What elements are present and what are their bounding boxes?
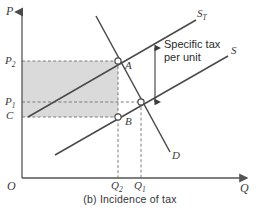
price-label-p2: P2: [5, 55, 15, 69]
specific-tax-annotation-line2: per unit: [164, 51, 201, 63]
price-label-p1-text: P: [5, 95, 12, 107]
figure-caption: (b) Incidence of tax: [0, 193, 260, 205]
price-label-c-text: C: [6, 109, 13, 121]
point-b-marker: [115, 114, 121, 120]
quantity-label-q2-text: Q: [111, 179, 119, 191]
price-label-p2-sub: 2: [12, 60, 16, 69]
curve-label-supply-with-tax: ST: [197, 8, 207, 22]
y-axis-label: P: [6, 5, 13, 17]
price-label-c: C: [6, 110, 13, 121]
curve-label-st-sub: T: [203, 13, 207, 22]
quantity-label-q1-text: Q: [134, 179, 142, 191]
quantity-label-q1: Q1: [134, 180, 146, 194]
supply-demand-diagram: [0, 0, 260, 212]
curve-label-supply: S: [231, 45, 237, 56]
curve-label-demand: D: [172, 150, 180, 161]
quantity-label-q2: Q2: [111, 180, 123, 194]
tax-revenue-shaded-region: [22, 61, 118, 117]
specific-tax-annotation-line1: Specific tax: [164, 38, 220, 50]
point-pretax-equilibrium-marker: [138, 99, 144, 105]
figure-incidence-of-tax: P Q O P2 P1 C Q2 Q1 ST S D A B Specific …: [0, 0, 260, 212]
price-label-p1: P1: [5, 96, 15, 110]
point-a-marker: [115, 58, 121, 64]
origin-label: O: [7, 180, 16, 192]
price-label-p2-text: P: [5, 54, 12, 66]
point-label-b: B: [125, 116, 132, 127]
point-label-a: A: [125, 60, 132, 71]
